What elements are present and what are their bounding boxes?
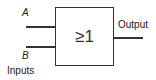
input-b-label: B (22, 50, 29, 62)
output-wire (114, 37, 143, 39)
inputs-caption: Inputs (7, 65, 34, 77)
gate-box: ≥1 (55, 7, 114, 66)
input-a-label: A (22, 7, 29, 19)
output-label: Output (118, 19, 148, 31)
input-a-wire (26, 26, 55, 28)
gate-symbol: ≥1 (56, 27, 113, 47)
input-b-wire (26, 46, 55, 48)
